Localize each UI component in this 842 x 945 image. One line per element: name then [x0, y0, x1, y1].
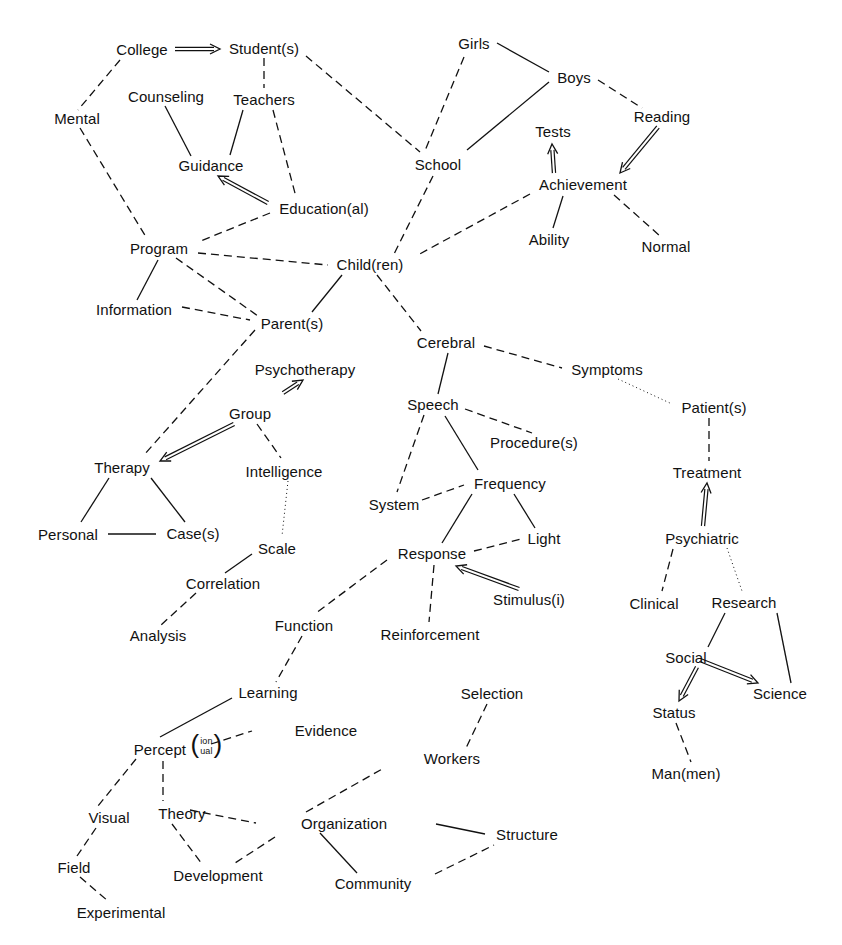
- node-structure: Structure: [496, 827, 558, 842]
- node-organization: Organization: [301, 816, 387, 831]
- arrow-edge: [701, 483, 711, 526]
- node-cases: Case(s): [166, 526, 219, 541]
- solid-edge: [151, 478, 185, 522]
- solid-edge: [137, 260, 158, 300]
- solid-edge: [442, 494, 472, 543]
- solid-edge: [777, 613, 791, 683]
- dashed-edge: [80, 877, 108, 901]
- dashed-edge: [257, 424, 281, 458]
- solid-edge: [467, 82, 549, 150]
- node-frequency: Frequency: [474, 476, 546, 491]
- node-guidance: Guidance: [178, 158, 243, 173]
- node-program: Program: [130, 241, 188, 256]
- dashed-edge: [276, 636, 302, 682]
- dashed-edge: [662, 549, 673, 591]
- dashed-edge: [78, 60, 120, 110]
- node-cerebral: Cerebral: [417, 335, 475, 350]
- dashed-edge: [394, 176, 433, 254]
- node-clinical: Clinical: [629, 596, 678, 611]
- node-learning: Learning: [238, 685, 297, 700]
- node-label: Percept: [134, 741, 186, 758]
- node-college: College: [116, 42, 168, 57]
- dashed-edge: [198, 213, 270, 242]
- solid-edge: [497, 43, 549, 72]
- node-experimental: Experimental: [77, 905, 166, 920]
- solid-edge: [81, 478, 109, 522]
- dashed-edge: [98, 759, 136, 806]
- node-treatment: Treatment: [673, 465, 742, 480]
- arrow-edge: [699, 659, 758, 684]
- solid-edge: [514, 494, 535, 528]
- node-procedures: Procedure(s): [490, 435, 578, 450]
- node-response: Response: [398, 546, 466, 561]
- node-psychiatric: Psychiatric: [665, 531, 739, 546]
- dashed-edge: [182, 307, 250, 320]
- dashed-edge: [306, 768, 384, 812]
- node-function: Function: [275, 618, 333, 633]
- dashed-edge: [465, 409, 532, 433]
- node-reinforcement: Reinforcement: [381, 627, 480, 642]
- dashed-edge: [144, 330, 255, 455]
- dashed-edge: [466, 704, 487, 748]
- node-speech: Speech: [407, 397, 458, 412]
- dotted-edge: [618, 379, 672, 404]
- node-school: School: [415, 157, 461, 172]
- node-system: System: [369, 497, 420, 512]
- dashed-edge: [306, 56, 420, 152]
- dashed-edge: [422, 485, 464, 500]
- node-therapy: Therapy: [94, 460, 150, 475]
- node-light: Light: [527, 531, 560, 546]
- solid-edge: [436, 824, 485, 834]
- node-evidence: Evidence: [295, 723, 358, 738]
- dashed-edge: [198, 253, 328, 265]
- dashed-edge: [273, 110, 296, 197]
- solid-edge: [553, 196, 563, 228]
- dashed-edge: [598, 80, 642, 108]
- node-manmen: Man(men): [651, 766, 720, 781]
- node-selection: Selection: [461, 686, 524, 701]
- arrow-edge: [160, 423, 235, 461]
- node-ability: Ability: [529, 232, 570, 247]
- arrow-edge: [679, 666, 698, 701]
- solid-edge: [445, 416, 478, 470]
- node-psychotherapy: Psychotherapy: [255, 362, 356, 377]
- suffix-bottom: ual: [200, 746, 212, 756]
- dashed-edge: [435, 845, 494, 874]
- node-students: Student(s): [229, 41, 299, 56]
- dashed-edge: [172, 824, 202, 864]
- dashed-edge: [316, 560, 387, 613]
- suffix-top: ion: [200, 736, 212, 746]
- node-teachers: Teachers: [233, 92, 295, 107]
- node-parents: Parent(s): [261, 316, 324, 331]
- solid-edge: [165, 106, 191, 156]
- arrow-edge: [620, 126, 659, 173]
- node-science: Science: [753, 686, 807, 701]
- node-educational: Education(al): [279, 201, 369, 216]
- solid-edge: [708, 613, 725, 647]
- node-children: Child(ren): [337, 257, 404, 272]
- node-achievement: Achievement: [539, 177, 627, 192]
- arrow-edge: [282, 380, 303, 394]
- node-research: Research: [712, 595, 777, 610]
- node-personal: Personal: [38, 527, 98, 542]
- dashed-edge: [474, 539, 521, 551]
- node-theory: Theory: [158, 806, 205, 821]
- dashed-edge: [176, 258, 258, 316]
- arrow-edge: [548, 144, 558, 173]
- node-boys: Boys: [557, 70, 591, 85]
- dashed-edge: [484, 346, 562, 368]
- node-perceptual: Percept (ionual): [134, 733, 223, 759]
- node-reading: Reading: [634, 109, 691, 124]
- node-mental: Mental: [54, 111, 100, 126]
- node-visual: Visual: [88, 810, 129, 825]
- node-intelligence: Intelligence: [245, 464, 322, 479]
- dashed-edge: [161, 593, 196, 625]
- dashed-edge: [424, 57, 464, 153]
- dashed-edge: [397, 415, 424, 492]
- solid-edge: [438, 353, 448, 394]
- solid-edge: [225, 554, 252, 573]
- node-community: Community: [335, 876, 412, 891]
- dashed-edge: [232, 837, 275, 865]
- node-information: Information: [96, 302, 172, 317]
- dashed-edge: [676, 723, 691, 762]
